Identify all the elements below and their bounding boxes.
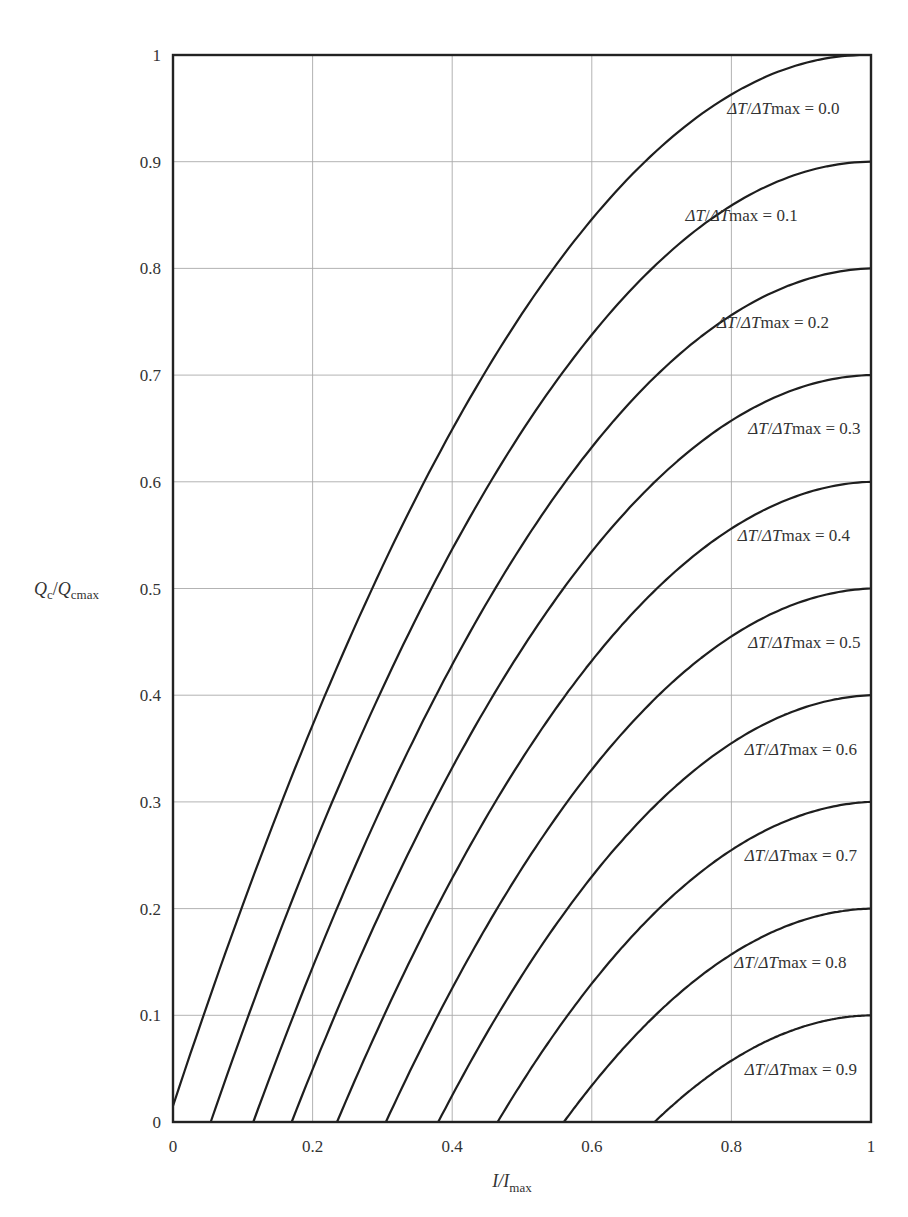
y-tick-label: 0.2 xyxy=(140,900,161,919)
curve-label: ΔT/ΔTmax = 0.5 xyxy=(747,633,860,652)
y-tick-label: 0.1 xyxy=(140,1006,161,1025)
x-tick-label: 0 xyxy=(169,1137,178,1156)
y-axis-label: Qc/Qcmax xyxy=(34,579,99,602)
x-tick-label: 0.2 xyxy=(302,1137,323,1156)
y-tick-label: 0.5 xyxy=(140,580,161,599)
y-tick-label: 0.6 xyxy=(140,473,161,492)
x-tick-label: 0.4 xyxy=(442,1137,464,1156)
curve-label: ΔT/ΔTmax = 0.0 xyxy=(726,99,839,118)
y-tick-label: 0.4 xyxy=(140,686,162,705)
x-tick-label: 0.6 xyxy=(581,1137,602,1156)
curve-label: ΔT/ΔTmax = 0.7 xyxy=(744,846,858,865)
y-tick-label: 0.9 xyxy=(140,153,161,172)
y-tick-label: 0.8 xyxy=(140,259,161,278)
curve-label: ΔT/ΔTmax = 0.3 xyxy=(747,419,860,438)
curve-label: ΔT/ΔTmax = 0.9 xyxy=(744,1060,857,1079)
chart: ΔT/ΔTmax = 0.0ΔT/ΔTmax = 0.1ΔT/ΔTmax = 0… xyxy=(0,0,908,1217)
y-axis-ticks: 00.10.20.30.40.50.60.70.80.91 xyxy=(140,46,162,1132)
x-tick-label: 0.8 xyxy=(721,1137,742,1156)
x-tick-label: 1 xyxy=(867,1137,876,1156)
y-tick-label: 0.3 xyxy=(140,793,161,812)
curve-label: ΔT/ΔTmax = 0.4 xyxy=(737,526,851,545)
curve-label: ΔT/ΔTmax = 0.6 xyxy=(744,740,857,759)
x-axis-label: I/Imax xyxy=(491,1171,532,1195)
y-tick-label: 1 xyxy=(153,46,162,65)
x-axis-ticks: 00.20.40.60.81 xyxy=(169,1137,876,1156)
curve-label: ΔT/ΔTmax = 0.2 xyxy=(716,313,829,332)
y-tick-label: 0.7 xyxy=(140,366,162,385)
curve-label: ΔT/ΔTmax = 0.8 xyxy=(733,953,846,972)
y-tick-label: 0 xyxy=(153,1113,162,1132)
curve-label: ΔT/ΔTmax = 0.1 xyxy=(684,206,797,225)
